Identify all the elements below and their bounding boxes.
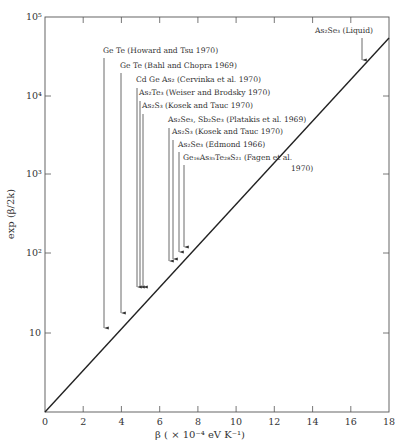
svg-text:4: 4 [118,416,124,427]
y-tick-label: 10³ [26,168,42,179]
y-axis-label: exp (β/2k) [5,189,16,240]
x-axis-label: β ( × 10⁻⁴ eV K⁻¹) [155,429,245,440]
annotation-label: As₂Se₃, Sb₂Se₃ (Platakis et al. 1969) [167,115,306,124]
chart: 10⁵ 10⁴ 10³ 10² 10 0 2 4 6 8 10 12 14 16… [0,0,401,447]
svg-text:8: 8 [195,416,201,427]
svg-text:10: 10 [230,416,242,427]
annotation-label: Ge Te (Howard and Tsu 1970) [103,46,218,55]
annotation-label: As₂S₃ (Kosek and Tauc 1970) [171,127,283,136]
y-tick-label: 10⁵ [26,11,42,22]
svg-text:0: 0 [42,416,48,427]
svg-text:16: 16 [345,416,357,427]
annotation-label: Ge Te (Bahl and Chopra 1969) [120,61,237,70]
annotation-label: 1970) [291,164,313,173]
annotation-label: Cd Ge As₂ (Cervinka et al. 1970) [136,75,261,84]
x-tick-labels: 0 2 4 6 8 10 12 14 16 18 [42,416,395,427]
y-tick-label: 10⁴ [26,90,42,101]
svg-text:18: 18 [383,416,395,427]
annotation-label: As₂Se₃ (Edmond 1966) [177,140,265,149]
y-tick-label: 10 [29,327,41,338]
svg-text:12: 12 [268,416,280,427]
annotation-label: As₂S₃ (Kosek and Tauc 1970) [141,101,253,110]
svg-text:14: 14 [307,416,319,427]
svg-text:6: 6 [157,416,163,427]
annotation-label: As₂Te₃ (Weiser and Brodsky 1970) [138,88,270,97]
y-tick-label: 10² [26,247,42,258]
annotation-label: As₂Se₃ (Liquid) [314,26,373,35]
svg-text:2: 2 [80,416,86,427]
annotation-label: Ge₁₆As₃₅Te₂₈S₂₁ (Fagen et al. [183,153,292,162]
